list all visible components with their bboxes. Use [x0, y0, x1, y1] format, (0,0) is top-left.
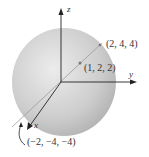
point-label-bottom: (−2, −4, −4)	[27, 137, 76, 147]
center-point	[79, 62, 82, 65]
y-axis-label: y	[129, 70, 133, 79]
point-label-top: (2, 4, 4)	[106, 39, 138, 49]
x-axis-label: x	[34, 121, 38, 130]
endpoint-top	[99, 44, 102, 47]
z-axis-label: z	[67, 5, 71, 14]
pointer-arrow	[19, 125, 25, 145]
pointer-arrowhead-icon	[19, 122, 23, 127]
z-arrow-icon	[59, 8, 64, 15]
y-arrow-icon	[130, 80, 137, 85]
point-label-center: (1, 2, 2)	[84, 63, 116, 73]
sphere-diagram	[0, 0, 149, 157]
